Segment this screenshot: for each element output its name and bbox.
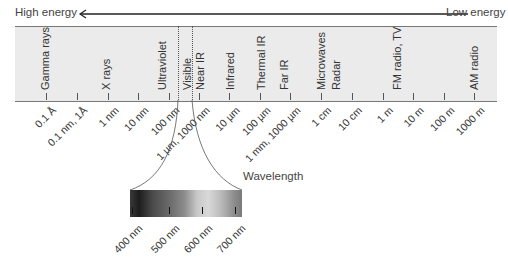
visible-zoom-lines: [0, 0, 508, 265]
spectrum-tick: [202, 207, 203, 214]
spectrum-tick: [169, 207, 170, 214]
spectrum-tick: [132, 207, 133, 214]
visible-spectrum-bar: [130, 190, 242, 217]
wavelength-label: Wavelength: [243, 170, 303, 182]
spectrum-tick: [235, 207, 236, 214]
